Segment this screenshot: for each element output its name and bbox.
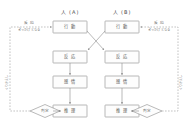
column-header-person-a: 人 (A) — [61, 9, 80, 15]
node-a-response-label: 反 応 — [64, 53, 76, 60]
edge-label-right-top-secondary: きっかけとなる — [148, 27, 170, 32]
node-b-thought-label: 推 理 — [116, 107, 128, 114]
node-a-feeling-label: 感 情 — [64, 78, 75, 85]
node-b-feeling-label: 感 情 — [116, 78, 127, 85]
node-a-action-label: 行 動 — [64, 23, 75, 30]
decision-b-label: 判定 — [143, 108, 151, 113]
edge-label-left-top-primary: 反 応 — [24, 20, 34, 25]
edge-a-action-to-b-response — [87, 31, 104, 50]
flowchart-diagram: 人 (A) 人 (B) 行 動 反 応 感 情 推 理 行 動 反 応 感 情 … — [0, 0, 188, 131]
edge-label-right-top-primary: 反 応 — [154, 20, 164, 25]
decision-a-label: 判定 — [41, 108, 49, 113]
node-a-thought-label: 推 理 — [64, 107, 76, 114]
edge-label-left-top-secondary: きっかけとなる — [18, 27, 40, 32]
column-header-person-b: 人 (B) — [113, 9, 132, 15]
edge-b-decision-return-to-b-action — [140, 27, 178, 111]
edge-a-decision-return-to-a-action — [10, 27, 52, 111]
edge-label-left-side-loop: くりかえし — [4, 75, 9, 90]
node-b-response-label: 反 応 — [116, 53, 128, 60]
node-b-action-label: 行 動 — [116, 23, 127, 30]
edge-label-right-side-loop: くりかえし — [178, 75, 183, 90]
edge-b-action-to-a-response — [88, 31, 105, 50]
